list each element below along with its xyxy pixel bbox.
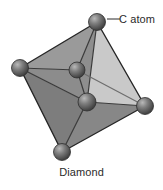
c-atom-right	[137, 98, 154, 115]
callout-label-text: C atom	[119, 13, 155, 25]
c-atom-top	[89, 14, 106, 31]
caption-text: Diamond	[59, 166, 104, 178]
figure-caption: Diamond	[0, 166, 163, 179]
c-atom-left	[12, 60, 29, 77]
c-atom-center-upper	[69, 62, 85, 78]
diamond-structure-figure: C atom Diamond	[0, 0, 163, 190]
c-atom-callout-label: C atom	[119, 13, 155, 25]
octahedron-crystal-graphic	[0, 0, 163, 190]
c-atom-center-lower	[78, 93, 96, 111]
c-atom-bottom	[54, 144, 71, 161]
